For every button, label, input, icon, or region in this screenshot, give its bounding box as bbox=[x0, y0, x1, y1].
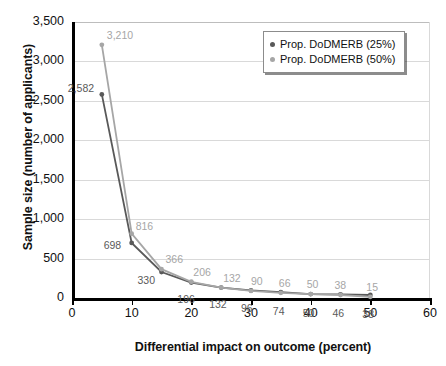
y-axis-tick-label: 500 bbox=[4, 251, 64, 265]
x-axis-tick-mark bbox=[251, 298, 253, 305]
data-point-label: 74 bbox=[273, 305, 285, 317]
x-axis-tick-label: 50 bbox=[350, 306, 390, 320]
data-point-marker bbox=[338, 293, 343, 298]
legend-label: Prop. DoDMERB (50%) bbox=[280, 52, 396, 67]
series-line-1 bbox=[102, 45, 371, 297]
x-axis-tick-label: 30 bbox=[231, 306, 271, 320]
data-point-marker bbox=[99, 92, 104, 97]
x-axis-tick-mark bbox=[191, 298, 193, 305]
data-point-marker bbox=[368, 294, 373, 299]
legend-marker-icon bbox=[270, 42, 275, 47]
x-axis-tick-label: 10 bbox=[112, 306, 152, 320]
y-axis-tick-label: 1,000 bbox=[4, 211, 64, 225]
x-axis-tick-label: 0 bbox=[52, 306, 92, 320]
y-axis-tick-label: 2,000 bbox=[4, 132, 64, 146]
y-axis-tick-label: 3,500 bbox=[4, 14, 64, 28]
legend-item-1[interactable]: Prop. DoDMERB (50%) bbox=[270, 52, 396, 67]
x-axis-tick-label: 60 bbox=[410, 306, 446, 320]
x-axis-title: Differential impact on outcome (percent) bbox=[60, 340, 446, 354]
legend-label: Prop. DoDMERB (25%) bbox=[280, 37, 396, 52]
data-point-label: 46 bbox=[333, 307, 345, 319]
y-axis-tick-label: 2,500 bbox=[4, 93, 64, 107]
x-axis-tick-mark bbox=[132, 298, 134, 305]
data-point-marker bbox=[278, 290, 283, 295]
y-axis-tick-label: 1,500 bbox=[4, 172, 64, 186]
x-axis-tick-label: 20 bbox=[171, 306, 211, 320]
x-axis-tick-mark bbox=[311, 298, 313, 305]
x-axis-tick-mark bbox=[430, 298, 432, 305]
chart-container: Sample size (number of applicants) Diffe… bbox=[0, 0, 446, 366]
legend-item-0[interactable]: Prop. DoDMERB (25%) bbox=[270, 37, 396, 52]
data-point-marker bbox=[249, 289, 254, 294]
legend-marker-icon bbox=[270, 57, 275, 62]
series-line-0 bbox=[102, 94, 371, 295]
data-point-marker bbox=[219, 285, 224, 290]
data-point-marker bbox=[308, 292, 313, 297]
data-point-marker bbox=[99, 42, 104, 47]
legend: Prop. DoDMERB (25%)Prop. DoDMERB (50%) bbox=[263, 31, 405, 73]
x-axis-tick-mark bbox=[72, 298, 74, 305]
y-axis-tick-label: 3,000 bbox=[4, 53, 64, 67]
data-point-marker bbox=[129, 241, 134, 246]
y-axis-tick-label: 0 bbox=[4, 290, 64, 304]
data-point-marker bbox=[189, 279, 194, 284]
x-axis-tick-label: 40 bbox=[291, 306, 331, 320]
data-point-marker bbox=[159, 267, 164, 272]
data-point-marker bbox=[129, 231, 134, 236]
